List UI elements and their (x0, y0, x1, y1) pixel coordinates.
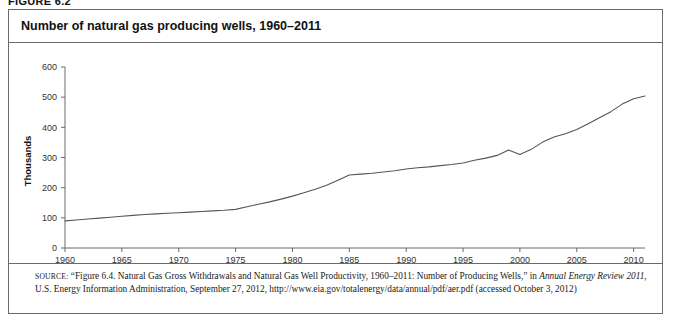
chart-plot-area: 0100200300400500600 19601965197019751980… (9, 43, 664, 271)
y-axis-tick-label: 300 (42, 153, 57, 163)
y-axis-tick-group: 0100200300400500600 (42, 62, 65, 253)
y-axis-tick-label: 0 (52, 243, 57, 253)
source-italic-title: Annual Energy Review 2011 (539, 271, 644, 281)
source-note: SOURCE: “Figure 6.4. Natural Gas Gross W… (9, 263, 662, 315)
data-series-line (65, 96, 645, 221)
y-axis-tick-label: 100 (42, 213, 57, 223)
y-axis-title: Thousands (22, 136, 33, 187)
figure-page: FIGURE 6.2 Number of natural gas produci… (0, 0, 679, 325)
y-axis-tick-label: 400 (42, 123, 57, 133)
title-bar: Number of natural gas producing wells, 1… (9, 10, 662, 43)
line-chart-svg: 0100200300400500600 19601965197019751980… (9, 43, 664, 271)
figure-number-label: FIGURE 6.2 (8, 0, 71, 7)
chart-title: Number of natural gas producing wells, 1… (21, 19, 321, 33)
y-axis-tick-label: 600 (42, 62, 57, 72)
y-axis-tick-label: 500 (42, 92, 57, 102)
y-axis-tick-label: 200 (42, 183, 57, 193)
source-label: SOURCE: (35, 272, 68, 281)
figure-box: Number of natural gas producing wells, 1… (8, 9, 663, 314)
source-note-text: SOURCE: “Figure 6.4. Natural Gas Gross W… (35, 270, 648, 296)
source-part-1: “Figure 6.4. Natural Gas Gross Withdrawa… (68, 271, 539, 281)
